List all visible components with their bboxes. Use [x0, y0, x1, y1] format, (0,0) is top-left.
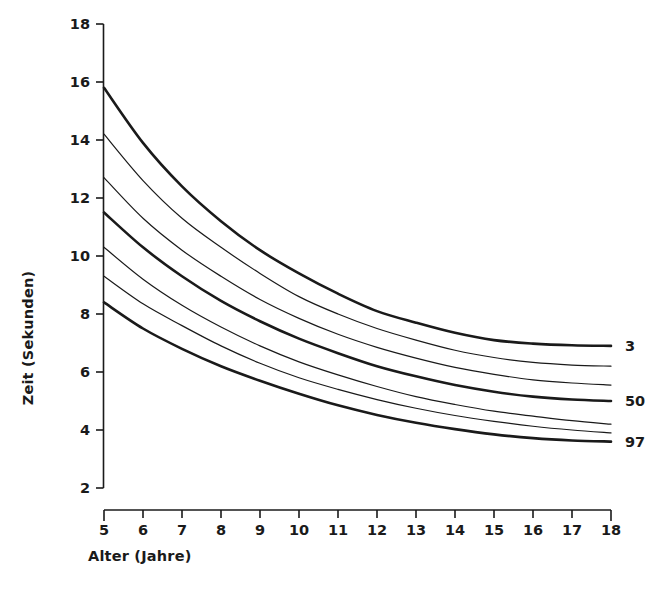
- curve-p10: [104, 134, 611, 366]
- y-axis-tick-label: 6: [56, 364, 90, 380]
- x-axis-tick-label: 9: [242, 522, 278, 538]
- curve-p97: [104, 302, 611, 441]
- y-axis-tick-label: 2: [56, 480, 90, 496]
- y-axis-tick-label: 8: [56, 306, 90, 322]
- curve-label-p3: 3: [625, 338, 635, 354]
- y-axis-tick-label: 14: [56, 132, 90, 148]
- x-axis-tick-label: 13: [398, 522, 434, 538]
- y-axis-tick-label: 18: [56, 16, 90, 32]
- plot-area: [0, 0, 657, 590]
- curve-p25: [104, 178, 611, 385]
- y-axis-label: Zeit (Sekunden): [20, 248, 36, 428]
- x-axis-tick-label: 6: [125, 522, 161, 538]
- x-axis-tick-label: 18: [593, 522, 629, 538]
- y-axis-tick-label: 12: [56, 190, 90, 206]
- curve-label-p97: 97: [625, 434, 645, 450]
- curve-label-p50: 50: [625, 393, 645, 409]
- x-axis-label: Alter (Jahre): [88, 548, 192, 564]
- y-axis-tick-label: 4: [56, 422, 90, 438]
- x-axis-tick-label: 16: [515, 522, 551, 538]
- x-axis-tick-label: 7: [164, 522, 200, 538]
- x-axis-tick-label: 5: [86, 522, 122, 538]
- x-axis-tick-label: 10: [281, 522, 317, 538]
- x-axis-tick-label: 15: [476, 522, 512, 538]
- x-axis-tick-label: 17: [554, 522, 590, 538]
- x-axis-tick-label: 11: [320, 522, 356, 538]
- chart-figure: Zeit (Sekunden) Alter (Jahre) 2468101214…: [0, 0, 657, 590]
- x-axis-tick-label: 8: [203, 522, 239, 538]
- y-axis-tick-label: 10: [56, 248, 90, 264]
- x-axis-tick-label: 14: [437, 522, 473, 538]
- y-axis-tick-label: 16: [56, 74, 90, 90]
- curve-p50: [104, 213, 611, 402]
- x-axis-tick-label: 12: [359, 522, 395, 538]
